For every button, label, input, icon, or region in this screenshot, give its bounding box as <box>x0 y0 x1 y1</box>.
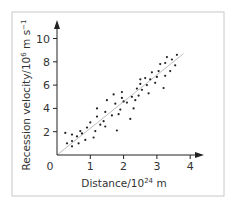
data-point <box>141 89 143 91</box>
data-point <box>71 145 73 147</box>
data-point <box>138 95 140 97</box>
data-point <box>166 56 168 58</box>
data-point <box>119 109 121 111</box>
data-point <box>104 125 106 127</box>
data-point <box>154 82 156 84</box>
data-point <box>129 118 131 120</box>
data-point <box>121 91 123 93</box>
data-point <box>164 75 166 77</box>
data-point <box>78 142 80 144</box>
data-point <box>123 100 125 102</box>
data-point <box>79 130 81 132</box>
data-point <box>121 97 123 99</box>
data-point <box>158 70 160 72</box>
x-tick-label: 2 <box>120 160 127 173</box>
data-point <box>171 58 173 60</box>
x-axis-label: Distance/1024 m <box>81 177 166 189</box>
data-point <box>81 132 83 134</box>
data-point <box>96 107 98 109</box>
data-point <box>134 99 136 101</box>
data-point <box>118 113 120 115</box>
data-point <box>84 139 86 141</box>
data-point <box>133 107 135 109</box>
data-point <box>94 130 96 132</box>
origin-label: 0 <box>47 160 54 173</box>
x-tick-label: 4 <box>187 160 194 173</box>
data-point <box>66 142 68 144</box>
data-point <box>164 62 166 64</box>
y-tick-label: 2 <box>43 126 50 139</box>
data-point <box>131 96 133 98</box>
data-point <box>156 76 158 78</box>
data-point <box>114 103 116 105</box>
data-point <box>111 114 113 116</box>
data-point <box>76 135 78 137</box>
scatter-chart: 0 1234 246810 Distance/1024 m Recession … <box>0 0 235 202</box>
data-point <box>146 84 148 86</box>
data-point <box>159 63 161 65</box>
data-point <box>86 127 88 129</box>
data-point <box>64 132 66 134</box>
data-point <box>89 121 91 123</box>
data-point <box>71 134 73 136</box>
data-point <box>126 102 128 104</box>
data-point <box>149 78 151 80</box>
data-point <box>174 64 176 66</box>
x-tick-label: 3 <box>153 160 160 173</box>
y-tick-label: 6 <box>43 79 50 92</box>
data-point <box>139 83 141 85</box>
data-point <box>163 87 165 89</box>
y-tick-label: 10 <box>36 33 50 46</box>
y-tick-label: 8 <box>43 56 50 69</box>
data-point <box>106 99 108 101</box>
data-point <box>148 92 150 94</box>
data-point <box>136 88 138 90</box>
data-point <box>99 124 101 126</box>
data-point <box>103 120 105 122</box>
data-point <box>144 77 146 79</box>
data-point <box>151 71 153 73</box>
x-tick-label: 1 <box>87 160 94 173</box>
y-tick-label: 4 <box>43 102 50 115</box>
data-point <box>176 54 178 56</box>
data-point <box>96 116 98 118</box>
data-point <box>139 78 141 80</box>
data-point <box>93 136 95 138</box>
data-point <box>113 93 115 95</box>
y-axis-label: Recession velocity/106 m s−1 <box>20 20 32 171</box>
data-point <box>104 111 106 113</box>
data-point <box>116 129 118 131</box>
data-point <box>71 140 73 142</box>
data-point <box>169 70 171 72</box>
